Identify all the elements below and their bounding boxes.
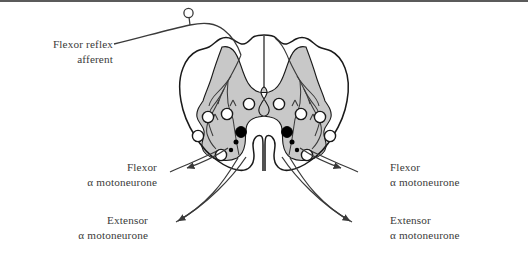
right-flexor-label-line1: Flexor bbox=[390, 161, 420, 173]
neuron-open-right-3 bbox=[314, 111, 325, 122]
label-right-extensor-motoneurone: Extensor α motoneurone bbox=[390, 214, 460, 241]
interneuron-filled-left bbox=[236, 127, 247, 138]
arrow-left-extensor bbox=[178, 157, 246, 221]
neuron-open-right-2 bbox=[295, 108, 306, 119]
arrow-right-extensor bbox=[282, 157, 350, 221]
label-left-extensor-motoneurone: Extensor α motoneurone bbox=[78, 214, 148, 241]
left-extensor-label-line1: Extensor bbox=[107, 214, 148, 226]
label-flexor-reflex-afferent: Flexor reflex afferent bbox=[53, 38, 114, 65]
label-right-flexor-motoneurone: Flexor α motoneurone bbox=[390, 161, 460, 188]
neuron-open-left-4 bbox=[192, 130, 203, 141]
interneuron-dot-left-1 bbox=[234, 140, 239, 145]
neuron-open-right-1 bbox=[273, 98, 284, 109]
afferent-entry-right bbox=[275, 38, 287, 55]
right-extensor-label-line1: Extensor bbox=[390, 214, 431, 226]
left-flexor-label-line1: Flexor bbox=[127, 161, 157, 173]
right-extensor-label-line2: α motoneurone bbox=[390, 229, 460, 241]
interneuron-dot-right-2 bbox=[295, 148, 299, 152]
spinal-cord-diagram: Flexor reflex afferent Flexor α motoneur… bbox=[0, 0, 528, 256]
neuron-open-right-4 bbox=[324, 130, 335, 141]
neuron-open-left-2 bbox=[221, 108, 232, 119]
axon-left-flexor bbox=[170, 150, 219, 172]
pointer-arrows bbox=[178, 148, 350, 221]
right-flexor-label-line2: α motoneurone bbox=[390, 176, 460, 188]
neuron-open-left-3 bbox=[202, 111, 213, 122]
left-extensor-label-line2: α motoneurone bbox=[78, 229, 148, 241]
interneuron-filled-right bbox=[282, 127, 293, 138]
left-flexor-label-line2: α motoneurone bbox=[87, 176, 157, 188]
figure-root: Flexor reflex afferent Flexor α motoneur… bbox=[0, 0, 528, 256]
label-left-flexor-motoneurone: Flexor α motoneurone bbox=[87, 161, 157, 188]
neuron-open-left-1 bbox=[243, 98, 254, 109]
ventral-root-axons bbox=[170, 150, 358, 222]
afferent-label-line1: Flexor reflex bbox=[53, 38, 113, 50]
axon-right-flexor bbox=[309, 150, 358, 172]
afferent-cell-body-icon bbox=[184, 8, 193, 17]
interneuron-dot-right-1 bbox=[290, 140, 295, 145]
interneuron-dot-left-2 bbox=[229, 148, 233, 152]
afferent-label-line2: afferent bbox=[77, 53, 114, 65]
